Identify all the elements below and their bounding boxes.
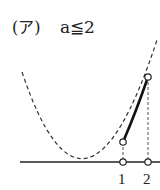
open-point-axis-x1 — [120, 159, 126, 165]
tick-label-1: 1 — [118, 171, 126, 187]
open-point-curve-x2 — [145, 74, 151, 80]
open-point-axis-x2 — [145, 159, 151, 165]
graph: 1 2 — [0, 0, 160, 190]
open-point-curve-x1 — [120, 139, 126, 145]
parabola-dashed — [22, 40, 157, 159]
tick-label-2: 2 — [143, 171, 151, 187]
parabola-solid-segment — [123, 77, 148, 142]
